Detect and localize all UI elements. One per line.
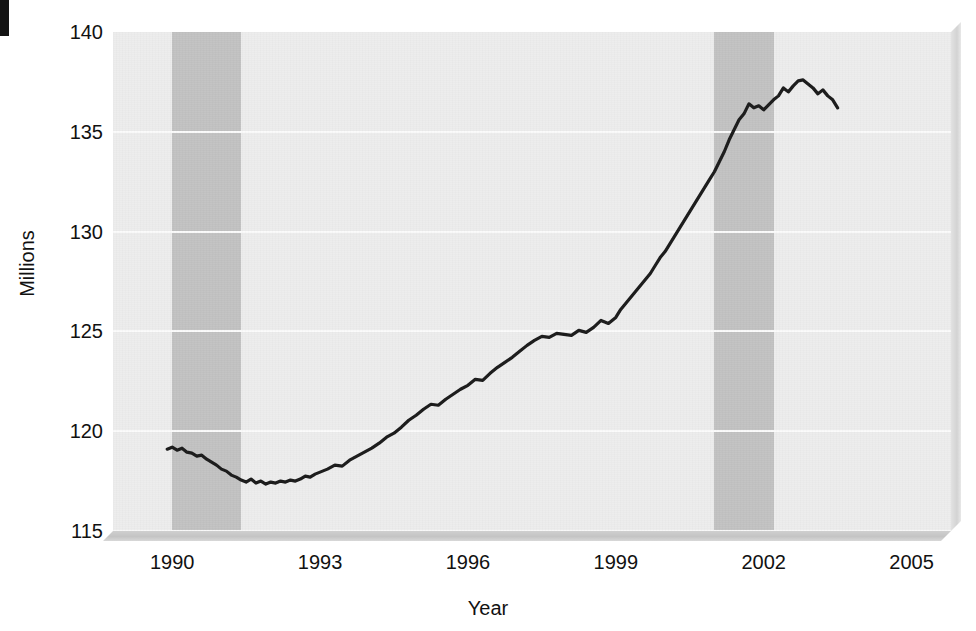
x-tick-label-2005: 2005 (867, 551, 957, 574)
plot-panel (113, 32, 951, 531)
x-tick-label-1990: 1990 (127, 551, 217, 574)
y-tick-label-120: 120 (3, 421, 103, 441)
x-tick-label-1996: 1996 (423, 551, 513, 574)
chart-figure: 115120125130135140 Millions 199019931996… (0, 0, 976, 631)
page-edge-top-mask (9, 0, 976, 3)
y-tick-label-135: 135 (3, 122, 103, 142)
y-tick-label-140: 140 (3, 22, 103, 42)
x-tick-label-2002: 2002 (719, 551, 809, 574)
series-line-layer (113, 32, 951, 531)
series-line-employment (167, 80, 837, 484)
x-tick-label-1993: 1993 (275, 551, 365, 574)
plot-panel-bottom-bevel (103, 531, 951, 541)
x-tick-label-1999: 1999 (571, 551, 661, 574)
y-tick-label-125: 125 (3, 321, 103, 341)
x-axis-label: Year (0, 597, 976, 620)
y-tick-label-115: 115 (3, 521, 103, 541)
plot-panel-right-bevel (951, 22, 961, 531)
plot-area (113, 32, 951, 531)
y-axis-label: Millions (16, 204, 39, 324)
